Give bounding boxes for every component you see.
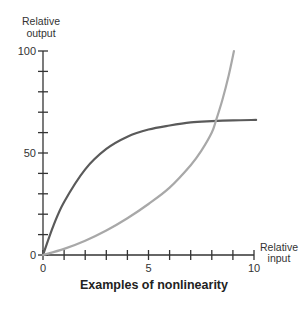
x-tick-10: 10: [248, 262, 260, 274]
convex-curve-line: [43, 51, 234, 255]
axes: [38, 51, 254, 260]
y-tick-50: 50: [24, 147, 36, 159]
chart-title: Examples of nonlinearity: [0, 278, 308, 292]
y-tick-100: 100: [18, 45, 36, 57]
concave-curve-line: [43, 120, 256, 255]
series-group: [43, 51, 256, 255]
y-tick-0: 0: [30, 249, 36, 261]
nonlinearity-chart: Relative output 100 50 0 0 5 10 Relative…: [0, 0, 308, 310]
y-axis-label-line1: Relative: [22, 15, 60, 27]
y-axis-label-line2: output: [26, 27, 55, 39]
x-tick-0: 0: [40, 262, 46, 274]
x-tick-5: 5: [145, 262, 151, 274]
x-axis-label-line2: input: [268, 252, 291, 264]
